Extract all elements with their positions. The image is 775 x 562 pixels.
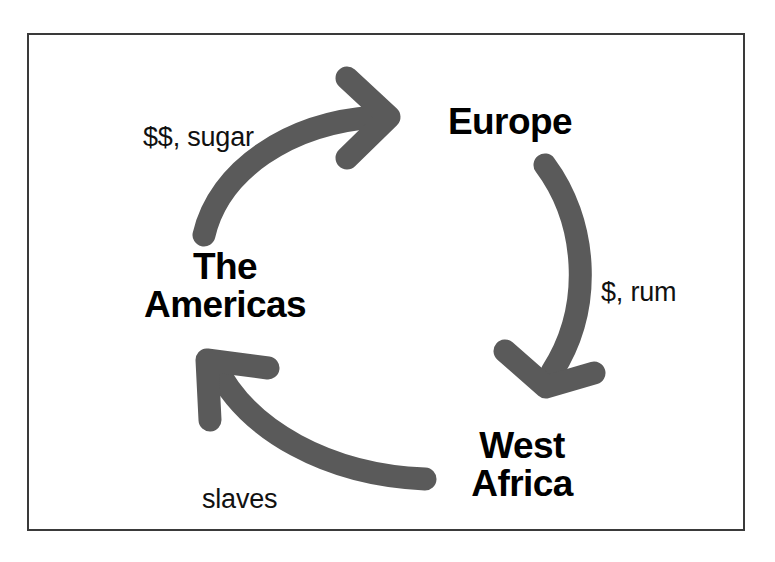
node-label-the-americas-line2: Americas: [125, 286, 325, 324]
flow-label-money-sugar: $$, sugar: [143, 123, 254, 151]
node-label-west-africa-line1: West: [449, 427, 595, 465]
node-label-west-africa-line2: Africa: [449, 465, 595, 503]
arrow-west-africa-to-americas: [207, 360, 425, 479]
figure-root: Europe The Americas West Africa $$, suga…: [0, 0, 775, 562]
node-label-the-americas: The Americas: [125, 248, 325, 323]
arrow-europe-to-west-africa: [505, 165, 594, 387]
node-label-europe: Europe: [448, 103, 572, 141]
flow-label-money-rum: $, rum: [601, 278, 676, 306]
node-label-west-africa: West Africa: [449, 427, 595, 502]
flow-label-slaves: slaves: [202, 485, 277, 513]
arrow-americas-to-europe: [204, 78, 389, 235]
node-label-the-americas-line1: The: [125, 248, 325, 286]
diagram-frame: Europe The Americas West Africa $$, suga…: [27, 33, 745, 531]
